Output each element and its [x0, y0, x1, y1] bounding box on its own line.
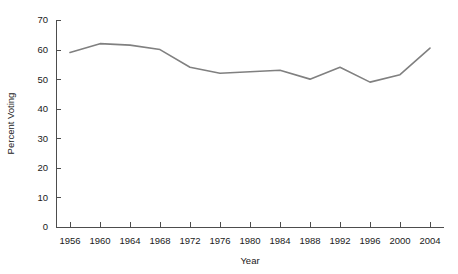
y-tick-label: 10 — [37, 192, 48, 203]
y-axis-tick-labels: 010203040506070 — [37, 14, 48, 232]
y-tick-label: 70 — [37, 14, 48, 25]
x-axis-tick-marks — [71, 222, 431, 227]
line-chart: 010203040506070 195619601964196819721976… — [0, 0, 458, 274]
y-tick-label: 0 — [43, 221, 48, 232]
x-tick-label: 1968 — [149, 235, 170, 246]
x-tick-label: 1976 — [209, 235, 230, 246]
x-tick-label: 1980 — [239, 235, 260, 246]
x-tick-label: 1960 — [89, 235, 110, 246]
y-tick-label: 20 — [37, 162, 48, 173]
y-tick-label: 60 — [37, 44, 48, 55]
x-tick-label: 1992 — [329, 235, 350, 246]
chart-container: 010203040506070 195619601964196819721976… — [0, 0, 458, 274]
x-tick-label: 1984 — [269, 235, 290, 246]
x-tick-label: 2000 — [389, 235, 410, 246]
x-tick-label: 1964 — [119, 235, 140, 246]
x-tick-label: 1988 — [299, 235, 320, 246]
data-series-line — [70, 44, 430, 82]
x-axis-tick-labels: 1956196019641968197219761980198419881992… — [59, 235, 440, 246]
y-tick-label: 30 — [37, 133, 48, 144]
x-tick-label: 1996 — [359, 235, 380, 246]
x-tick-label: 1956 — [59, 235, 80, 246]
y-axis-title: Percent Voting — [5, 93, 16, 155]
x-axis-title: Year — [240, 255, 259, 266]
x-tick-label: 1972 — [179, 235, 200, 246]
y-tick-label: 50 — [37, 74, 48, 85]
y-tick-label: 40 — [37, 103, 48, 114]
x-tick-label: 2004 — [419, 235, 440, 246]
